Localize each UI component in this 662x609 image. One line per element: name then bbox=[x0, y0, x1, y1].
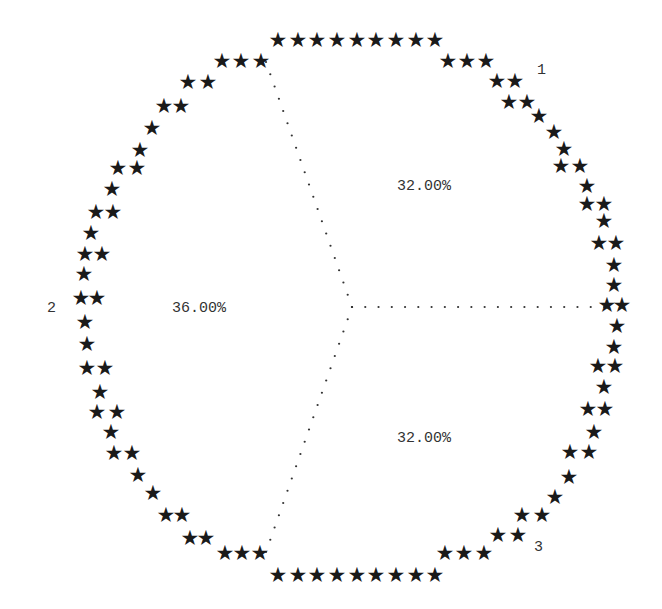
outline-star: ★ bbox=[590, 231, 609, 255]
divider-dot bbox=[338, 269, 340, 271]
divider-dot bbox=[282, 502, 284, 504]
outline-star: ★ bbox=[123, 441, 142, 465]
slice-percent-2: 36.00% bbox=[172, 300, 227, 317]
slice-percent-labels: 32.00% 36.00% 32.00% bbox=[172, 178, 452, 447]
outline-star: ★ bbox=[251, 541, 270, 565]
slice-category-labels: 1 2 3 bbox=[47, 62, 546, 556]
divider-dot bbox=[308, 183, 310, 185]
outline-star: ★ bbox=[500, 90, 519, 114]
outline-star: ★ bbox=[289, 563, 308, 587]
divider-dot bbox=[347, 318, 349, 320]
divider-dot bbox=[317, 404, 319, 406]
divider-dot bbox=[325, 232, 327, 234]
outline-star: ★ bbox=[439, 49, 458, 73]
outline-star: ★ bbox=[328, 563, 347, 587]
outline-star: ★ bbox=[269, 563, 288, 587]
divider-dot bbox=[417, 306, 419, 308]
outline-star: ★ bbox=[143, 116, 162, 140]
outline-star: ★ bbox=[197, 526, 216, 550]
divider-dot bbox=[321, 392, 323, 394]
outline-star: ★ bbox=[595, 375, 614, 399]
slice-label-1: 1 bbox=[537, 62, 546, 79]
divider-dot bbox=[550, 306, 552, 308]
outline-star: ★ bbox=[579, 397, 598, 421]
outline-star: ★ bbox=[78, 356, 97, 380]
outline-star: ★ bbox=[509, 523, 528, 547]
outline-star: ★ bbox=[367, 28, 386, 52]
outline-star: ★ bbox=[269, 28, 288, 52]
divider-dot bbox=[342, 281, 344, 283]
divider-dot bbox=[312, 416, 314, 418]
divider-dot bbox=[334, 257, 336, 259]
divider-dot bbox=[377, 306, 379, 308]
outline-star: ★ bbox=[475, 541, 494, 565]
outline-star: ★ bbox=[289, 28, 308, 52]
outline-star: ★ bbox=[552, 154, 571, 178]
outline-star: ★ bbox=[103, 177, 122, 201]
divider-dot bbox=[269, 73, 271, 75]
divider-dot bbox=[291, 134, 293, 136]
divider-dot bbox=[308, 428, 310, 430]
outline-star: ★ bbox=[75, 262, 94, 286]
outline-star: ★ bbox=[455, 541, 474, 565]
divider-dot bbox=[295, 147, 297, 149]
outline-star: ★ bbox=[155, 94, 174, 118]
divider-dot bbox=[470, 306, 472, 308]
divider-dot bbox=[329, 245, 331, 247]
divider-dot bbox=[278, 514, 280, 516]
outline-star: ★ bbox=[173, 503, 192, 527]
divider-dot bbox=[304, 441, 306, 443]
divider-dot bbox=[576, 306, 578, 308]
divider-dot bbox=[299, 453, 301, 455]
divider-dot bbox=[278, 98, 280, 100]
outline-star: ★ bbox=[128, 156, 147, 180]
divider-dot bbox=[430, 306, 432, 308]
outline-star: ★ bbox=[199, 70, 218, 94]
divider-dot bbox=[364, 306, 366, 308]
outline-star: ★ bbox=[407, 28, 426, 52]
outline-star: ★ bbox=[595, 209, 614, 233]
outline-star: ★ bbox=[172, 94, 191, 118]
outline-star: ★ bbox=[216, 541, 235, 565]
slice-percent-3: 32.00% bbox=[397, 430, 452, 447]
divider-dot bbox=[391, 306, 393, 308]
outline-star: ★ bbox=[78, 332, 97, 356]
divider-dot bbox=[325, 379, 327, 381]
outline-star: ★ bbox=[533, 503, 552, 527]
divider-dot bbox=[497, 306, 499, 308]
outline-star: ★ bbox=[144, 481, 163, 505]
divider-dot bbox=[286, 490, 288, 492]
outline-star: ★ bbox=[179, 70, 198, 94]
divider-dot bbox=[291, 477, 293, 479]
divider-dot bbox=[286, 122, 288, 124]
outline-star: ★ bbox=[348, 563, 367, 587]
outline-star: ★ bbox=[561, 440, 580, 464]
outline-star: ★ bbox=[328, 28, 347, 52]
outline-star: ★ bbox=[308, 563, 327, 587]
outline-star: ★ bbox=[367, 563, 386, 587]
outline-star: ★ bbox=[105, 441, 124, 465]
divider-dot bbox=[295, 465, 297, 467]
divider-dot bbox=[342, 330, 344, 332]
slice-label-2: 2 bbox=[47, 300, 56, 317]
divider-dot bbox=[299, 159, 301, 161]
divider-dot bbox=[317, 208, 319, 210]
divider-dot bbox=[590, 306, 592, 308]
outline-star: ★ bbox=[436, 541, 455, 565]
divider-dot bbox=[444, 306, 446, 308]
outline-star: ★ bbox=[76, 310, 95, 334]
divider-dot bbox=[282, 110, 284, 112]
divider-dot bbox=[321, 220, 323, 222]
divider-dot bbox=[347, 294, 349, 296]
outline-star: ★ bbox=[232, 49, 251, 73]
outline-star: ★ bbox=[252, 49, 271, 73]
outline-star: ★ bbox=[458, 49, 477, 73]
outline-star: ★ bbox=[348, 28, 367, 52]
outline-star: ★ bbox=[104, 200, 123, 224]
divider-dot bbox=[269, 539, 271, 541]
pie-chart: ★★★★★★★★★★★★★★★★★★★★★★★★★★★★★★★★★★★★★★★★… bbox=[0, 0, 662, 609]
divider-dot bbox=[304, 171, 306, 173]
outline-star: ★ bbox=[387, 563, 406, 587]
outline-star: ★ bbox=[596, 397, 615, 421]
outline-star: ★ bbox=[88, 286, 107, 310]
